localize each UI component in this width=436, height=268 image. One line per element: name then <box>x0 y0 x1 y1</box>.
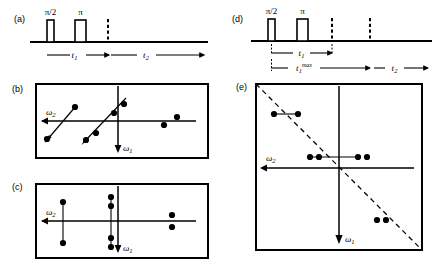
t2-arrowhead <box>199 53 205 58</box>
figure-root: (a) t1 t2 π/2 π <box>0 0 436 268</box>
pi-over-2-pulse-label: π/2 <box>45 7 57 17</box>
peak-dot <box>169 224 175 230</box>
panel-b-graphic: ω2 ω1 <box>0 72 218 168</box>
pi-over-2-pulse-label: π/2 <box>266 6 278 16</box>
panel-e-label: (e) <box>236 82 247 92</box>
pi-over-2-pulse <box>47 20 54 42</box>
peak-dot <box>60 199 66 205</box>
panel-d: (d) t1 t1max <box>218 0 436 76</box>
panel-a: (a) t1 t2 π/2 π <box>0 0 218 70</box>
pi-pulse-label: π <box>300 6 305 16</box>
peak-dot <box>364 154 370 160</box>
peak-dot <box>271 111 277 117</box>
panel-b-label: (b) <box>12 84 23 94</box>
pi-pulse <box>297 19 308 41</box>
pi-pulse <box>75 20 86 42</box>
peak-dot <box>383 217 389 223</box>
panel-a-label: (a) <box>14 14 25 24</box>
peak-dot <box>93 130 99 136</box>
peak-dot <box>108 203 114 209</box>
panel-e-graphic: ω2 ω1 <box>218 72 436 268</box>
peak-dot <box>108 194 114 200</box>
peak-dot <box>374 217 380 223</box>
t1max-arrowhead <box>365 66 370 70</box>
peak-dot <box>295 111 301 117</box>
peak-dot <box>161 122 167 128</box>
peak-dot <box>316 154 322 160</box>
peak-dot <box>169 212 175 218</box>
peak-dot <box>174 114 180 120</box>
peak-dot <box>44 136 50 142</box>
peak-dot <box>72 104 78 110</box>
peak-dot <box>60 240 66 246</box>
peak-dot <box>111 110 117 116</box>
t1-label: t1 <box>299 48 305 59</box>
t2-label: t2 <box>143 50 150 61</box>
pi-pulse-label: π <box>78 7 83 17</box>
t1-arrowhead <box>104 53 110 58</box>
panel-a-graphic: t1 t2 π/2 π <box>0 0 218 70</box>
panel-c-graphic: ω2 ω1 <box>0 170 218 268</box>
panel-e: (e) ω2 ω1 <box>218 72 436 268</box>
panel-c: (c) ω2 ω1 <box>0 170 218 268</box>
panel-d-graphic: t1 t1max t2 π/2 π <box>218 0 436 76</box>
panel-c-label: (c) <box>12 182 23 192</box>
peak-dot <box>355 154 361 160</box>
t2-arrowhead <box>423 66 428 70</box>
t1-label: t1 <box>72 50 78 61</box>
peak-dot <box>307 154 313 160</box>
panel-d-label: (d) <box>232 14 243 24</box>
peak-dot <box>83 137 89 143</box>
peak-dot <box>108 244 114 250</box>
pi-over-2-pulse <box>268 19 275 41</box>
panel-b: (b) ω2 ω1 <box>0 72 218 168</box>
peak-dot <box>121 101 127 107</box>
peak-dot <box>108 235 114 241</box>
